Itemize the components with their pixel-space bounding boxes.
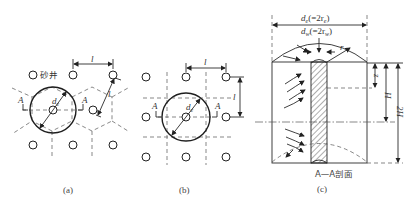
z-label: z <box>372 73 382 78</box>
sand-well <box>109 141 117 149</box>
caption-a: (a) <box>63 185 73 195</box>
caption-c: (c) <box>317 184 327 194</box>
panel-b: de A A l l (b) <box>142 57 244 195</box>
sand-well <box>182 73 190 81</box>
sand-well-label: 砂井 <box>40 70 58 80</box>
sand-well <box>69 141 77 149</box>
panel-a: de A A 砂井 l l (a) <box>12 54 128 195</box>
diameter-label: de <box>186 102 194 113</box>
de-label: de(=2re) <box>301 13 329 24</box>
section-label-left: A <box>151 101 158 111</box>
panel-c: de(=2re) dw(=2rw) r <box>255 13 405 194</box>
sand-well <box>142 153 150 161</box>
2H-label: 2H <box>395 106 405 118</box>
sand-well <box>142 113 150 121</box>
spacing-label: l <box>91 54 94 64</box>
r-label: r <box>340 42 344 52</box>
sand-well <box>142 73 150 81</box>
diagonal-spacing-label: l <box>108 89 111 99</box>
section-label-right: A <box>214 101 221 111</box>
sand-drain <box>311 62 327 163</box>
sand-well <box>29 71 37 79</box>
dw-label: dw(=2rw) <box>301 26 332 37</box>
sand-well <box>69 71 77 79</box>
sand-well <box>222 113 230 121</box>
H-label: H <box>383 91 393 99</box>
sand-well <box>89 106 97 114</box>
caption-b: (b) <box>179 185 190 195</box>
sand-well <box>29 141 37 149</box>
section-label-left: A <box>17 95 24 105</box>
sand-well-diagram: de A A 砂井 l l (a) de <box>0 0 409 206</box>
sand-well <box>222 73 230 81</box>
sand-well <box>222 153 230 161</box>
section-label-right: A <box>81 95 88 105</box>
spacing-v-label: l <box>233 92 236 102</box>
sand-well <box>182 153 190 161</box>
diameter-label: de <box>52 96 60 107</box>
spacing-h-label: l <box>204 57 207 67</box>
section-title: A—A剖面 <box>315 169 353 179</box>
